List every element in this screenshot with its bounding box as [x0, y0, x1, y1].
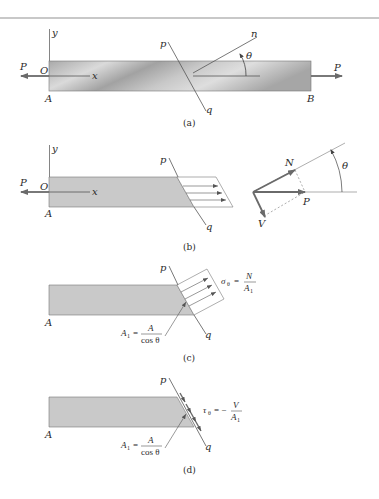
eq-sigma: σ	[221, 276, 226, 286]
caption-b: (b)	[183, 242, 196, 252]
eq-numerator: N	[245, 271, 253, 281]
eq-denominator-sub: 1	[237, 417, 240, 423]
eq-denominator: cos θ	[141, 447, 160, 457]
eq-a1: A	[120, 440, 127, 450]
eq-equals: =	[234, 276, 239, 286]
label-cut-q: q	[206, 221, 212, 232]
label-end-a: A	[44, 429, 52, 440]
eq-denominator: A	[243, 283, 250, 293]
eq-a1-sub: 1	[127, 445, 130, 451]
label-end-a: A	[44, 317, 52, 328]
angle-arc-icon	[331, 150, 342, 192]
label-resultant-force: P	[302, 196, 310, 207]
eq-a1: A	[120, 328, 127, 338]
stress-on-inclined-section-figure: y x O P P A B p q n θ (a) y x O P	[0, 0, 379, 499]
caption-d: (d)	[183, 465, 196, 475]
cut-bar-segment	[49, 285, 194, 315]
area-equation: A 1 = A cos θ	[120, 323, 162, 345]
label-cut-q: q	[205, 329, 211, 340]
label-cut-p: p	[160, 154, 167, 165]
cut-line-q	[194, 207, 206, 225]
eq-equals: = −	[214, 405, 226, 415]
top-rule	[0, 17, 379, 19]
eq-sigma-sub: θ	[227, 281, 230, 287]
label-x: x	[92, 70, 98, 81]
eq-denominator: cos θ	[141, 335, 160, 345]
eq-a1-sub: 1	[127, 333, 130, 339]
label-y: y	[51, 143, 58, 154]
eq-numerator: A	[147, 323, 154, 333]
label-left-force: P	[19, 177, 27, 188]
cut-bar-segment	[49, 397, 194, 427]
eq-denominator-sub: 1	[250, 288, 253, 294]
shear-stress-arrow	[186, 404, 191, 413]
normal-force-arrow	[253, 170, 295, 192]
label-right-force: P	[333, 62, 341, 73]
eq-denominator: A	[230, 412, 237, 422]
shear-stress-arrow	[191, 413, 196, 422]
label-cut-q: q	[206, 104, 212, 115]
eq-equals: =	[133, 328, 138, 338]
caption-c: (c)	[183, 353, 195, 363]
part-b: y x O P A p q N V P θ (b)	[19, 143, 357, 252]
label-x: x	[92, 186, 98, 197]
label-origin: O	[40, 65, 48, 76]
label-end-a: A	[44, 208, 52, 219]
eq-equals: =	[133, 440, 138, 450]
part-d: A p q τ θ = − V A 1 A 1 = A cos θ (d)	[44, 374, 242, 475]
cut-line-p	[169, 158, 178, 177]
eq-numerator: V	[233, 400, 240, 410]
dashed-projection	[264, 192, 305, 216]
dashed-projection	[295, 170, 305, 192]
shear-stress-equation: τ θ = − V A 1	[203, 400, 242, 423]
caption-a: (a)	[183, 118, 195, 128]
eq-numerator: A	[147, 435, 154, 445]
shear-stress-arrow	[180, 393, 185, 402]
label-normal-n: n	[251, 28, 257, 39]
label-left-force: P	[19, 61, 27, 72]
eq-tau: τ	[203, 405, 207, 415]
label-y: y	[51, 27, 58, 38]
label-theta: θ	[246, 50, 252, 61]
label-cut-q: q	[205, 441, 211, 452]
label-origin: O	[40, 181, 48, 192]
label-shear-force: V	[258, 218, 267, 229]
shear-force-arrow	[253, 192, 265, 217]
label-end-a: A	[44, 93, 52, 104]
label-cut-p: p	[160, 374, 167, 385]
label-cut-p: p	[160, 262, 167, 273]
normal-stress-equation: σ θ = N A 1	[221, 271, 256, 294]
eq-tau-sub: θ	[208, 410, 211, 416]
cut-line-p	[169, 266, 178, 285]
part-c: A p q σ θ = N A 1 A 1 = A cos θ (c)	[44, 262, 256, 363]
label-normal-force: N	[284, 157, 295, 168]
area-equation: A 1 = A cos θ	[120, 435, 162, 457]
label-cut-p: p	[160, 38, 167, 49]
label-theta: θ	[342, 160, 348, 171]
label-end-b: B	[306, 93, 314, 104]
part-a: y x O P P A B p q n θ (a)	[19, 27, 342, 128]
